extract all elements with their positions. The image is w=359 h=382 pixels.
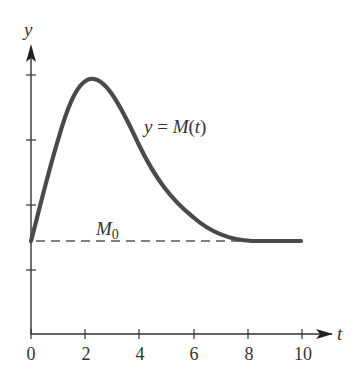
- x-tick-label-2: 2: [82, 344, 91, 364]
- x-tick-label-4: 4: [136, 344, 145, 364]
- x-axis-label: t: [337, 323, 343, 344]
- curve-m-of-t: [31, 79, 301, 241]
- m0-label: M0: [95, 218, 119, 242]
- x-tick-label-8: 8: [245, 344, 254, 364]
- x-tick-label-6: 6: [190, 344, 199, 364]
- x-tick-label-0: 0: [27, 344, 36, 364]
- chart: 0 2 4 6 8 10 t y y = M(t) M0: [0, 0, 359, 382]
- x-tick-label-10: 10: [294, 344, 312, 364]
- y-axis-label: y: [22, 19, 33, 40]
- curve-label: y = M(t): [142, 116, 206, 138]
